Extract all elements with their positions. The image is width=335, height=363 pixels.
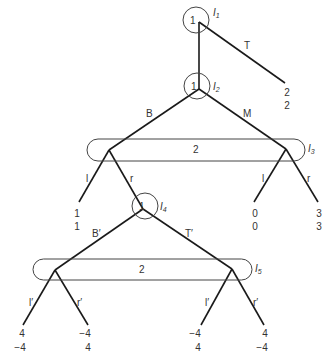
info-set-name-I1: I1 (213, 7, 220, 19)
info-set-name-I2: I2 (213, 81, 220, 93)
edge-I5-left-l-prime (23, 270, 55, 325)
edge-T (199, 22, 285, 83)
payoff-B-l: 1 1 (74, 208, 80, 232)
info-set-name-I4: I4 (160, 201, 167, 213)
payoff-p1: 4 (19, 328, 25, 339)
player-label-I5: 2 (139, 264, 145, 275)
action-label-I5-right-l-prime: l′ (205, 297, 209, 308)
payoff-p1: 0 (252, 208, 258, 219)
payoff-M-r: 3 3 (316, 208, 322, 232)
edge-B (109, 89, 199, 150)
payoff-B-prime-l-prime: 4 −4 (14, 328, 26, 353)
payoff-p2: −4 (256, 342, 268, 353)
player-label-I3: 2 (193, 144, 199, 155)
action-label-T: T (244, 40, 250, 51)
payoff-p1: −4 (189, 328, 201, 339)
action-label-I5-right-r-prime: r′ (253, 297, 258, 308)
action-label-M: M (243, 108, 251, 119)
player-label-I2: 1 (191, 81, 197, 92)
info-set-I1-circle (183, 7, 209, 33)
payoff-T-prime-r-prime: 4 −4 (256, 328, 268, 353)
action-label-T-prime: T′ (185, 228, 193, 239)
action-label-B-prime: B′ (92, 228, 101, 239)
edge-I3-left-l (79, 150, 109, 202)
payoff-T-prime-l-prime: −4 4 (189, 328, 201, 353)
payoff-T: 2 2 (284, 87, 290, 111)
info-set-I4-circle (132, 193, 158, 219)
payoff-p2: 2 (284, 100, 290, 111)
info-set-name-I3: I3 (308, 143, 315, 155)
action-label-B: B (146, 108, 153, 119)
payoff-p1: 4 (262, 328, 268, 339)
info-set-name-I5: I5 (255, 263, 262, 275)
info-set-I2-circle (184, 73, 210, 99)
edge-I3-right-l (254, 149, 286, 202)
edge-T-prime (143, 209, 232, 269)
payoff-p1: −4 (79, 328, 91, 339)
edge-I5-left-r-prime (55, 270, 88, 325)
payoff-p1: 1 (74, 208, 80, 219)
payoff-B-prime-r-prime: −4 4 (79, 328, 91, 353)
payoff-p2: 4 (85, 342, 91, 353)
edge-B-prime (55, 209, 143, 270)
edge-I3-left-r (109, 150, 143, 209)
action-label-I5-left-r-prime: r′ (77, 297, 82, 308)
action-label-I3-left-l: l (86, 173, 88, 184)
action-label-I3-right-l: l (262, 173, 264, 184)
game-tree: 1 1 2 1 2 I1 I2 I3 I4 I5 T B M l r l r B… (0, 0, 335, 363)
payoff-p1: 2 (284, 87, 290, 98)
payoff-p2: 0 (252, 221, 258, 232)
edge-M (199, 89, 286, 149)
payoff-p2: 1 (74, 221, 80, 232)
action-label-I5-left-l-prime: l′ (29, 297, 33, 308)
action-label-I3-right-r: r (307, 173, 311, 184)
payoff-p2: 3 (316, 221, 322, 232)
action-label-I3-left-r: r (130, 173, 134, 184)
payoff-p2: 4 (195, 342, 201, 353)
payoff-M-l: 0 0 (252, 208, 258, 232)
payoff-p1: 3 (316, 208, 322, 219)
player-label-I4: 1 (139, 201, 145, 212)
player-label-I1: 1 (190, 15, 196, 26)
payoff-p2: −4 (14, 342, 26, 353)
